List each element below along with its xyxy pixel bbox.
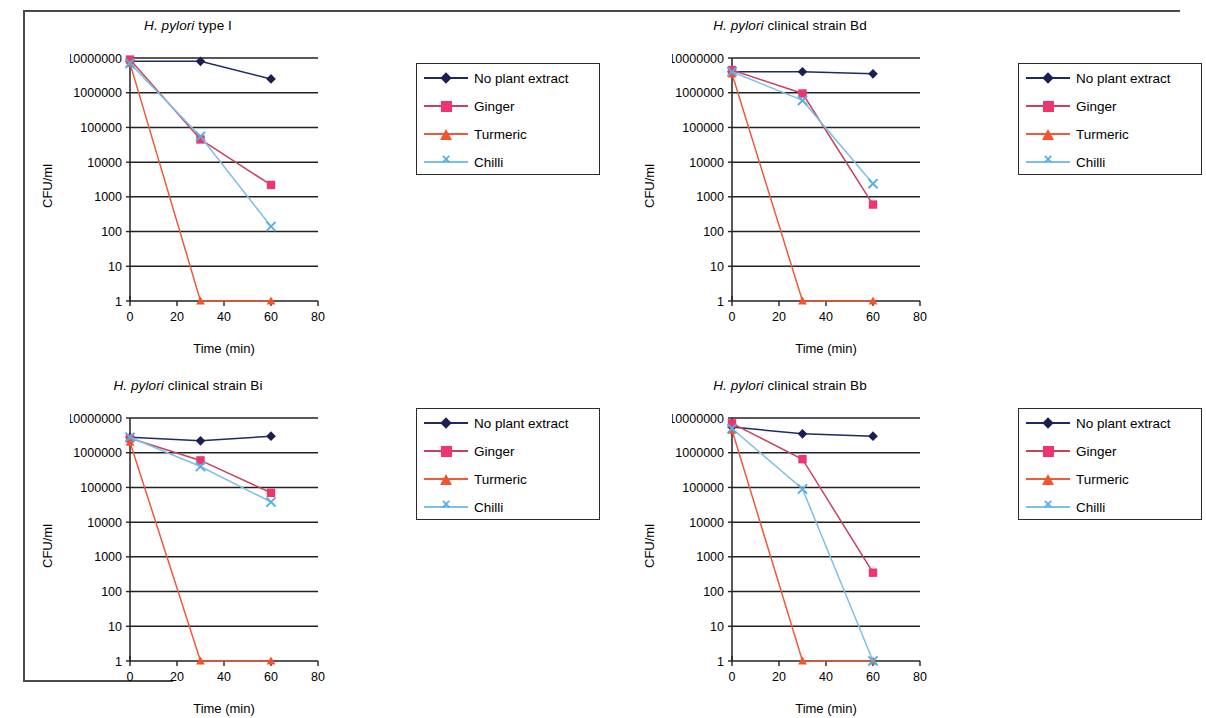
chart-panel-2: H. pylori clinical strain BdCFU/mlTime (… xyxy=(620,18,1206,358)
x-tick-label: 60 xyxy=(264,670,278,684)
legend-item-no-plant-extract[interactable]: No plant extract xyxy=(1019,64,1201,92)
legend-item-no-plant-extract[interactable]: No plant extract xyxy=(417,409,599,437)
triangle-marker xyxy=(440,129,452,140)
legend-item-chilli[interactable]: ×Chilli xyxy=(417,148,599,176)
legend-item-turmeric[interactable]: Turmeric xyxy=(417,465,599,493)
y-axis-label: CFU/ml xyxy=(40,163,55,207)
y-axis-label: CFU/ml xyxy=(40,523,55,567)
data-point-diamond-marker xyxy=(868,431,878,441)
diamond-marker xyxy=(1042,72,1053,83)
chart-title: H. pylori type I xyxy=(18,18,358,33)
x-tick-label: 60 xyxy=(866,310,880,324)
chart-legend: No plant extractGingerTurmeric×Chilli xyxy=(416,408,600,520)
chart-title: H. pylori clinical strain Bi xyxy=(18,378,358,393)
x-tick-label: 40 xyxy=(819,310,833,324)
legend-item-chilli[interactable]: ×Chilli xyxy=(1019,148,1201,176)
legend-item-chilli[interactable]: ×Chilli xyxy=(1019,493,1201,521)
legend-label: Turmeric xyxy=(1070,127,1129,142)
x-tick-label: 60 xyxy=(866,670,880,684)
y-tick-label: 1 xyxy=(115,295,122,309)
legend-item-turmeric[interactable]: Turmeric xyxy=(1019,465,1201,493)
data-point-square-marker xyxy=(267,181,275,189)
y-tick-label: 100 xyxy=(703,225,724,239)
legend-item-ginger[interactable]: Ginger xyxy=(417,92,599,120)
legend-key-square-marker xyxy=(1026,443,1070,459)
chart-legend: No plant extractGingerTurmeric×Chilli xyxy=(416,63,600,175)
chart-panel-3: H. pylori clinical strain BiCFU/mlTime (… xyxy=(18,378,618,718)
y-tick-label: 10000000 xyxy=(672,412,724,426)
chart-title-species: H. pylori xyxy=(144,18,194,33)
legend-item-no-plant-extract[interactable]: No plant extract xyxy=(417,64,599,92)
x-tick-label: 20 xyxy=(772,670,786,684)
cross-marker: × xyxy=(1041,154,1055,168)
x-axis-label: Time (min) xyxy=(732,341,920,356)
cross-marker: × xyxy=(1041,499,1055,513)
y-tick-label: 1000 xyxy=(94,550,122,564)
data-point-square-marker xyxy=(267,489,275,497)
y-tick-label: 100000 xyxy=(80,481,122,495)
square-marker xyxy=(1043,101,1054,112)
legend-label: Chilli xyxy=(1070,155,1105,170)
chart-legend: No plant extractGingerTurmeric×Chilli xyxy=(1018,408,1202,520)
plot-area: 1000000010000001000001000010001001010204… xyxy=(70,50,332,329)
y-tick-label: 1 xyxy=(115,655,122,669)
square-marker xyxy=(441,446,452,457)
y-tick-label: 10 xyxy=(108,620,122,634)
y-tick-label: 100000 xyxy=(682,121,724,135)
y-tick-label: 100 xyxy=(703,585,724,599)
legend-item-turmeric[interactable]: Turmeric xyxy=(1019,120,1201,148)
chart-title-species: H. pylori xyxy=(713,18,763,33)
x-tick-label: 80 xyxy=(913,670,927,684)
data-point-cross-marker xyxy=(798,484,807,493)
y-tick-label: 10000 xyxy=(87,516,122,530)
legend-key-triangle-marker xyxy=(424,126,468,142)
square-marker xyxy=(441,101,452,112)
y-tick-label: 1 xyxy=(717,295,724,309)
data-point-diamond-marker xyxy=(798,67,808,77)
data-point-diamond-marker xyxy=(266,74,276,84)
legend-item-no-plant-extract[interactable]: No plant extract xyxy=(1019,409,1201,437)
x-tick-label: 40 xyxy=(217,310,231,324)
plot-area: 1000000010000001000001000010001001010204… xyxy=(672,410,934,689)
x-tick-label: 20 xyxy=(772,310,786,324)
y-tick-label: 10000 xyxy=(87,156,122,170)
legend-label: Turmeric xyxy=(468,472,527,487)
chart-title-suffix: type I xyxy=(194,18,231,33)
legend-label: No plant extract xyxy=(468,71,569,86)
legend-item-chilli[interactable]: ×Chilli xyxy=(417,493,599,521)
legend-item-ginger[interactable]: Ginger xyxy=(1019,92,1201,120)
legend-key-cross-marker: × xyxy=(1026,499,1070,515)
legend-item-ginger[interactable]: Ginger xyxy=(417,437,599,465)
series-ginger xyxy=(728,66,877,209)
triangle-marker xyxy=(1042,474,1054,485)
y-tick-label: 1000000 xyxy=(675,446,724,460)
chart-title: H. pylori clinical strain Bb xyxy=(620,378,960,393)
legend-label: Ginger xyxy=(468,99,515,114)
y-tick-label: 10000 xyxy=(689,156,724,170)
legend-label: Chilli xyxy=(1070,500,1105,515)
x-tick-label: 40 xyxy=(217,670,231,684)
x-axis-label: Time (min) xyxy=(732,701,920,716)
y-tick-label: 1000000 xyxy=(73,86,122,100)
x-tick-label: 0 xyxy=(127,670,134,684)
legend-item-turmeric[interactable]: Turmeric xyxy=(417,120,599,148)
y-tick-label: 10000000 xyxy=(672,52,724,66)
legend-key-diamond-marker xyxy=(1026,70,1070,86)
legend-item-ginger[interactable]: Ginger xyxy=(1019,437,1201,465)
cross-marker: × xyxy=(439,154,453,168)
x-tick-label: 20 xyxy=(170,670,184,684)
legend-key-triangle-marker xyxy=(1026,126,1070,142)
data-point-cross-marker xyxy=(266,497,275,506)
chart-title-suffix: clinical strain Bd xyxy=(764,18,867,33)
series-turmeric xyxy=(126,59,276,305)
x-tick-label: 80 xyxy=(311,310,325,324)
series-chilli xyxy=(125,59,275,231)
legend-label: Ginger xyxy=(1070,99,1117,114)
series-line xyxy=(130,442,271,661)
data-point-cross-marker xyxy=(266,222,275,231)
y-tick-label: 1000000 xyxy=(73,446,122,460)
legend-label: No plant extract xyxy=(1070,71,1171,86)
diamond-marker xyxy=(1042,417,1053,428)
data-point-diamond-marker xyxy=(266,431,276,441)
